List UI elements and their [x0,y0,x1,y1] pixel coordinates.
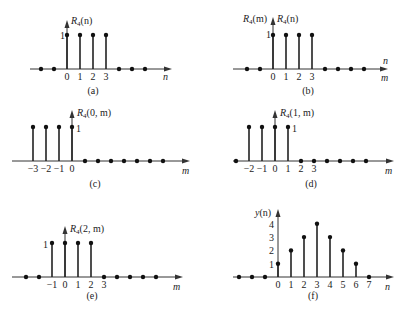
x-axis-label-secondary: m [381,72,388,83]
tick-label: 2 [299,163,304,174]
sample-dot [250,275,254,279]
sample-dot [297,33,301,37]
tick-label: −2 [41,163,52,174]
tick-label: 3 [312,163,317,174]
sample-dot [341,248,345,252]
value-one-label: 1 [43,239,48,250]
sample-dot [115,275,119,279]
tick-label: −3 [28,163,39,174]
tick-label: 3 [102,279,107,290]
sample-dot [362,67,366,71]
axis-arrow-icon [273,110,278,118]
sample-dot [234,159,238,163]
panel-e: −101231R4(2, m)m(e) [12,223,183,302]
axis-arrow-icon [380,67,388,72]
axis-arrow-icon [63,226,68,234]
sample-dot [50,241,54,245]
sample-dot [31,125,35,129]
panel-f: 012345671234y(n)n(f) [233,207,394,302]
tick-label: 4 [328,279,333,290]
sample-dot [351,159,355,163]
tick-label: 0 [271,71,276,82]
sample-dot [289,248,293,252]
x-axis-label: m [182,165,189,176]
tick-label: 1 [76,279,81,290]
sample-dot [130,67,134,71]
sample-dot [349,67,353,71]
y-tick-label: 3 [269,232,274,243]
axis-arrow-icon [386,159,394,164]
sample-dot [286,125,290,129]
sample-dot [141,275,145,279]
sample-dot [143,67,147,71]
sample-dot [76,241,80,245]
tick-label: 3 [315,279,320,290]
sample-dot [96,159,100,163]
axis-arrow-icon [182,159,190,164]
y-axis-label: R4(m) [242,13,267,26]
y-tick-label: 1 [269,259,274,270]
sample-dot [65,33,69,37]
tick-label: 1 [284,71,289,82]
sample-dot [302,235,306,239]
sample-dot [39,67,43,71]
sample-dot [135,159,139,163]
tick-label: 0 [63,279,68,290]
y-axis-label: R4(1, m) [279,107,314,120]
tick-label: 2 [91,71,96,82]
panel-a: 01231R4(n)n(a) [30,15,172,97]
panel-caption: (c) [89,178,100,190]
y-axis-label: R4(n) [70,15,92,28]
tick-label: 3 [104,71,109,82]
figure-stage: 01231R4(n)n(a)01231R4(m)R4(n)nm(b)−3−2−1… [0,0,402,312]
sample-dot [122,159,126,163]
sample-dot [78,33,82,37]
tick-label: 2 [297,71,302,82]
sample-dot [364,159,368,163]
y-tick-label: 4 [269,219,274,230]
sample-dot [57,125,61,129]
tick-label: 0 [65,71,70,82]
tick-label: 7 [367,279,372,290]
sample-dot [52,67,56,71]
y-axis-label: R4(n) [276,13,298,26]
sample-dot [24,275,28,279]
x-axis-label: n [383,55,388,66]
tick-label: 0 [70,163,75,174]
tick-label: 3 [310,71,315,82]
sample-dot [109,159,113,163]
sample-dot [263,275,267,279]
tick-label: 5 [341,279,346,290]
y-axis-label: y(n) [254,207,271,219]
tick-label: −2 [244,163,255,174]
sample-dot [273,125,277,129]
tick-label: 6 [354,279,359,290]
value-one-label: 1 [60,30,65,41]
sample-dot [237,275,241,279]
tick-label: 2 [302,279,307,290]
sample-dot [104,33,108,37]
sample-dot [245,67,249,71]
sample-dot [148,159,152,163]
tick-label: 1 [78,71,83,82]
y-axis-label: R4(2, m) [69,223,104,236]
sample-dot [323,67,327,71]
tick-label: 0 [273,163,278,174]
sample-dot [37,275,41,279]
panel-caption: (e) [86,290,97,302]
axis-arrow-icon [386,275,394,280]
axis-arrow-icon [65,20,70,28]
sample-dot [161,159,165,163]
sample-dot [91,33,95,37]
sample-dot [325,159,329,163]
sample-dot [271,33,275,37]
sample-dot [315,222,319,226]
tick-label: 2 [89,279,94,290]
sample-dot [70,125,74,129]
axis-arrow-icon [271,17,276,25]
sample-dot [354,262,358,266]
stem-plots-figure: 01231R4(n)n(a)01231R4(m)R4(n)nm(b)−3−2−1… [0,0,402,312]
sample-dot [128,275,132,279]
sample-dot [336,67,340,71]
sample-dot [338,159,342,163]
